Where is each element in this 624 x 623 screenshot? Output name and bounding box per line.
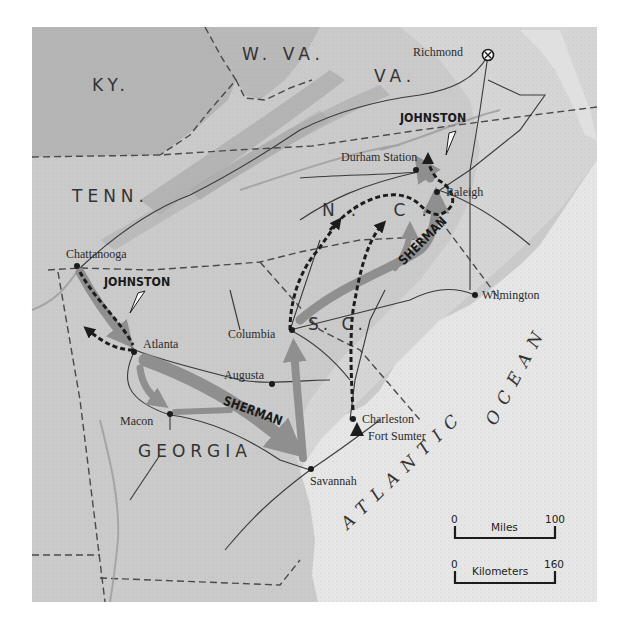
city-label-atlanta: Atlanta [143, 338, 178, 350]
city-label-raleigh: Raleigh [446, 186, 483, 198]
city-label-charleston: Charleston [362, 413, 414, 425]
scale-km-label: Kilometers [472, 566, 528, 577]
army-label-johnston-south: JOHNSTON [104, 275, 170, 288]
scale-km-max: 160 [544, 559, 564, 570]
state-label-nc: N. C. [322, 202, 443, 219]
city-label-savannah: Savannah [310, 475, 357, 487]
state-label-ky: KY. [92, 77, 130, 94]
scale-km-min: 0 [451, 559, 458, 570]
state-label-wva: W. VA. [242, 46, 325, 63]
state-label-va: VA. [374, 68, 416, 85]
city-label-chattanooga: Chattanooga [66, 248, 127, 260]
city-label-augusta: Augusta [224, 369, 264, 381]
scale-miles-label: Miles [491, 522, 518, 533]
state-label-tenn: TENN. [72, 188, 149, 205]
city-label-wilmington: Wilmington [482, 289, 540, 301]
city-label-columbia: Columbia [228, 328, 275, 340]
scale-miles-max: 100 [545, 514, 565, 525]
scale-miles-min: 0 [451, 514, 458, 525]
state-label-sc: S. C. [308, 316, 367, 333]
city-label-durham-station: Durham Station [341, 151, 417, 163]
city-label-richmond: Richmond [413, 46, 463, 58]
city-label-macon: Macon [120, 415, 153, 427]
state-label-georgia: GEORGIA [138, 443, 252, 460]
army-label-johnston-north: JOHNSTON [400, 111, 466, 124]
